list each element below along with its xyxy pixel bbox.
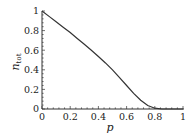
x-tick-label: 0.6 <box>119 111 134 122</box>
ticks <box>42 11 183 109</box>
y-tick-label: 0.2 <box>24 84 39 95</box>
x-tick-label: 0.4 <box>91 111 106 122</box>
y-tick-label: 0.4 <box>24 64 39 75</box>
x-axis-label: p <box>106 121 113 134</box>
axes <box>42 11 184 109</box>
tick-labels: 00.20.40.60.8100.20.40.60.81 <box>24 5 186 122</box>
y-axis-label-subscript: tot <box>15 53 23 63</box>
y-axis-label-group: ntot <box>9 53 23 70</box>
svg-text:ntot: ntot <box>9 53 23 70</box>
x-tick-label: 0 <box>39 111 45 122</box>
line-chart: 00.20.40.60.8100.20.40.60.81 p ntot <box>0 0 195 137</box>
x-tick-label: 0.8 <box>147 111 162 122</box>
x-tick-label: 0.2 <box>63 111 78 122</box>
y-axis-label: n <box>9 63 22 70</box>
y-tick-label: 1 <box>33 5 39 16</box>
chart-canvas: 00.20.40.60.8100.20.40.60.81 p ntot <box>0 0 195 137</box>
y-tick-label: 0.8 <box>24 25 39 36</box>
y-tick-label: 0.6 <box>24 45 39 56</box>
x-tick-label: 1 <box>180 111 186 122</box>
y-tick-label: 0 <box>33 103 39 114</box>
series-line-n-tot <box>42 11 183 109</box>
